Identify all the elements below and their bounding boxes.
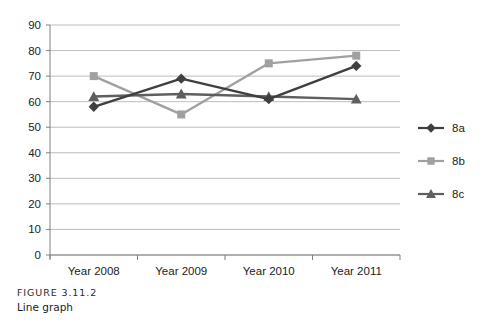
x-category-label: Year 2008 bbox=[68, 265, 120, 277]
data-point-marker bbox=[90, 72, 98, 80]
y-tick-label: 30 bbox=[28, 172, 41, 184]
legend-item-8c[interactable]: 8c bbox=[418, 188, 464, 200]
y-tick-label: 40 bbox=[28, 147, 41, 159]
y-tick-label: 10 bbox=[28, 223, 41, 235]
legend-item-8b[interactable]: 8b bbox=[418, 155, 465, 167]
series-8b bbox=[90, 52, 361, 119]
legend-label: 8c bbox=[452, 188, 464, 200]
legend-label: 8b bbox=[452, 155, 465, 167]
y-tick-label: 70 bbox=[28, 70, 41, 82]
legend-item-8a[interactable]: 8a bbox=[418, 122, 465, 134]
series-8a bbox=[89, 61, 362, 112]
figure-container: 0102030405060708090 Year 2008Year 2009Ye… bbox=[0, 0, 486, 335]
figure-caption: FIGURE 3.11.2 Line graph bbox=[17, 286, 317, 315]
grid-lines bbox=[50, 25, 400, 255]
figure-number: FIGURE 3.11.2 bbox=[17, 286, 317, 300]
y-axis-tick-labels: 0102030405060708090 bbox=[28, 19, 41, 261]
data-point-marker bbox=[427, 157, 434, 164]
data-point-marker bbox=[265, 59, 273, 67]
y-tick-label: 0 bbox=[35, 249, 41, 261]
data-point-marker bbox=[177, 110, 185, 118]
series-line bbox=[94, 66, 357, 107]
chart-legend: 8a8b8c bbox=[418, 122, 465, 200]
y-tick-label: 90 bbox=[28, 19, 41, 31]
series-line bbox=[94, 56, 357, 115]
x-category-label: Year 2011 bbox=[331, 265, 382, 277]
legend-label: 8a bbox=[452, 122, 465, 134]
x-axis-category-labels: Year 2008Year 2009Year 2010Year 2011 bbox=[68, 265, 382, 277]
x-category-label: Year 2009 bbox=[155, 265, 207, 277]
figure-title: Line graph bbox=[17, 300, 317, 315]
y-tick-label: 60 bbox=[28, 96, 41, 108]
x-category-label: Year 2010 bbox=[243, 265, 295, 277]
chart-axes bbox=[46, 25, 400, 260]
y-tick-label: 50 bbox=[28, 121, 41, 133]
data-series-layer bbox=[88, 52, 361, 119]
data-point-marker bbox=[426, 123, 436, 133]
data-point-marker bbox=[351, 61, 361, 71]
y-tick-label: 80 bbox=[28, 45, 41, 57]
data-point-marker bbox=[352, 52, 360, 60]
y-tick-label: 20 bbox=[28, 198, 41, 210]
line-chart: 0102030405060708090 Year 2008Year 2009Ye… bbox=[0, 0, 486, 335]
data-point-marker bbox=[89, 102, 99, 112]
data-point-marker bbox=[176, 73, 186, 83]
